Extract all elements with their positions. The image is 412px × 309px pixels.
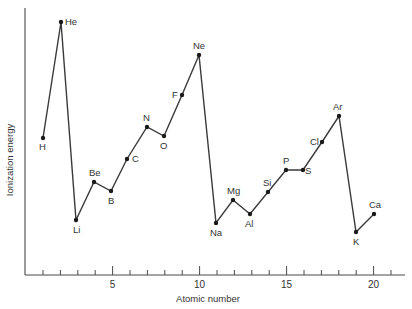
element-label-b: B — [108, 195, 114, 206]
element-label-o: O — [160, 140, 167, 151]
x-tick-label: 5 — [110, 279, 116, 290]
x-axis-ticks — [43, 266, 391, 275]
x-axis-tick-labels: 5101520 — [110, 279, 380, 290]
element-label-cl: Cl — [310, 136, 319, 147]
x-tick-label: 20 — [368, 279, 380, 290]
data-point-he — [59, 20, 63, 24]
data-point-o — [162, 134, 166, 138]
element-label-h: H — [39, 141, 46, 152]
x-axis-label: Atomic number — [176, 293, 240, 304]
element-label-mg: Mg — [227, 185, 240, 196]
data-point-li — [74, 218, 78, 222]
data-point-ar — [337, 114, 341, 118]
element-label-p: P — [283, 155, 289, 166]
element-label-na: Na — [210, 227, 223, 238]
x-tick-label: 10 — [194, 279, 206, 290]
data-point-mg — [231, 198, 235, 202]
element-label-n: N — [143, 112, 150, 123]
data-point-p — [284, 168, 288, 172]
data-point-k — [354, 230, 358, 234]
data-point-na — [214, 221, 218, 225]
ionization-energy-line — [43, 22, 374, 232]
ionization-energy-chart: 5101520 HHeLiBeBCNOFNeNaMgAlSiPSClArKCa … — [0, 0, 412, 309]
element-label-k: K — [353, 236, 360, 247]
y-axis-label: Ionization energy — [4, 124, 15, 197]
element-label-be: Be — [89, 167, 101, 178]
data-point-ne — [197, 53, 201, 57]
data-point-al — [248, 212, 252, 216]
element-label-li: Li — [73, 224, 80, 235]
x-tick-label: 15 — [281, 279, 293, 290]
data-point-si — [266, 190, 270, 194]
data-points — [41, 20, 376, 234]
data-point-n — [145, 125, 149, 129]
element-label-al: Al — [245, 218, 253, 229]
data-point-be — [92, 180, 96, 184]
element-label-si: Si — [263, 177, 271, 188]
data-point-ca — [372, 212, 376, 216]
element-label-ne: Ne — [193, 40, 205, 51]
element-label-ar: Ar — [333, 101, 343, 112]
element-label-s: S — [305, 165, 311, 176]
element-label-c: C — [132, 153, 139, 164]
element-labels: HHeLiBeBCNOFNeNaMgAlSiPSClArKCa — [39, 16, 382, 247]
element-label-f: F — [172, 89, 178, 100]
data-point-h — [41, 136, 45, 140]
data-point-c — [125, 157, 129, 161]
data-point-cl — [320, 140, 324, 144]
data-point-f — [180, 93, 184, 97]
element-label-he: He — [65, 16, 77, 27]
element-label-ca: Ca — [369, 199, 382, 210]
data-point-b — [109, 189, 113, 193]
